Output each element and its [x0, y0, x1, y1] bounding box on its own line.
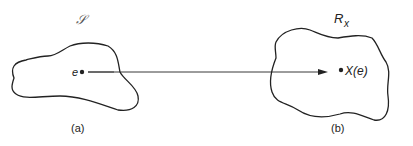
range-space-region	[270, 29, 388, 121]
point-e-label: e	[72, 66, 78, 78]
point-xe-label: X(e)	[344, 64, 368, 78]
caption-b: (b)	[331, 122, 344, 134]
range-space-label-subscript: x	[343, 18, 350, 29]
caption-a: (a)	[71, 122, 84, 134]
range-space-label: R	[334, 11, 343, 26]
point-xe-dot	[339, 68, 343, 72]
arrowhead-icon	[318, 69, 328, 75]
mapping-diagram: e X(e) 𝒮 R x (a) (b)	[0, 0, 413, 146]
sample-space-label: 𝒮	[76, 12, 90, 27]
point-e-dot	[80, 70, 84, 74]
